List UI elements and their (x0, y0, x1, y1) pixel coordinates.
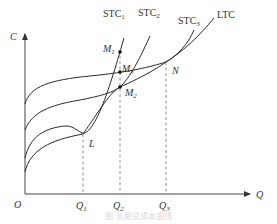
stc2-curve (25, 36, 150, 130)
label-ltc: LTC (217, 9, 235, 20)
axis-label-c: C (10, 31, 17, 42)
label-stc1: STC1 (103, 8, 125, 21)
origin-label: O (14, 199, 21, 210)
point-m1 (118, 50, 122, 54)
label-n: N (171, 65, 180, 76)
label-m2: M2 (124, 87, 137, 100)
point-m2 (118, 85, 122, 89)
label-m3: M3 (121, 63, 134, 76)
label-m1: M1 (102, 43, 115, 56)
label-stc3: STC3 (178, 15, 200, 28)
ltc-curve (25, 18, 214, 172)
label-stc2: STC2 (138, 7, 160, 20)
axis-label-q: Q (256, 189, 264, 200)
stc1-curve (25, 38, 124, 158)
figure-caption: 图 长期总成本曲线 (0, 210, 277, 221)
cost-curve-diagram: STC1 STC2 STC3 LTC M1 M3 M2 L N C Q O Q1… (0, 0, 277, 224)
label-l: L (88, 138, 95, 149)
